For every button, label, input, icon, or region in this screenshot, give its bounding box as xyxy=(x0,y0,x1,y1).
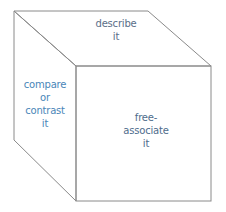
front-face-line: free- xyxy=(108,111,184,124)
left-face-label: compare or contrast it xyxy=(14,78,76,130)
left-face-line: it xyxy=(14,117,76,130)
left-face-line: or xyxy=(14,91,76,104)
top-face-label: describe it xyxy=(86,17,146,43)
top-face-line: describe xyxy=(86,17,146,30)
front-face-label: free- associate it xyxy=(108,111,184,150)
left-face-line: contrast xyxy=(14,104,76,117)
front-face-line: it xyxy=(108,137,184,150)
top-face-line: it xyxy=(86,30,146,43)
front-face-line: associate xyxy=(108,124,184,137)
left-face-line: compare xyxy=(14,78,76,91)
